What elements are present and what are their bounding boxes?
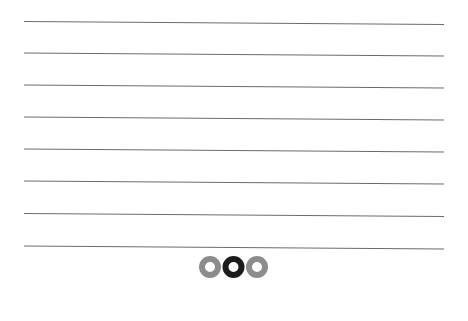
ruled-line-7: [24, 214, 444, 217]
page-indicator: [198, 255, 270, 279]
page-dot-3[interactable]: [249, 259, 265, 275]
ruled-line-3: [24, 85, 444, 88]
page-dot-1[interactable]: [202, 259, 218, 275]
page-dot-2[interactable]: [226, 259, 242, 275]
ruled-lines: [24, 22, 444, 250]
ruled-line-8: [24, 246, 444, 249]
ruled-line-5: [24, 149, 444, 152]
ruled-line-4: [24, 117, 444, 120]
ruled-line-2: [24, 53, 444, 56]
ruled-line-6: [24, 181, 444, 184]
ruled-line-1: [24, 22, 444, 25]
